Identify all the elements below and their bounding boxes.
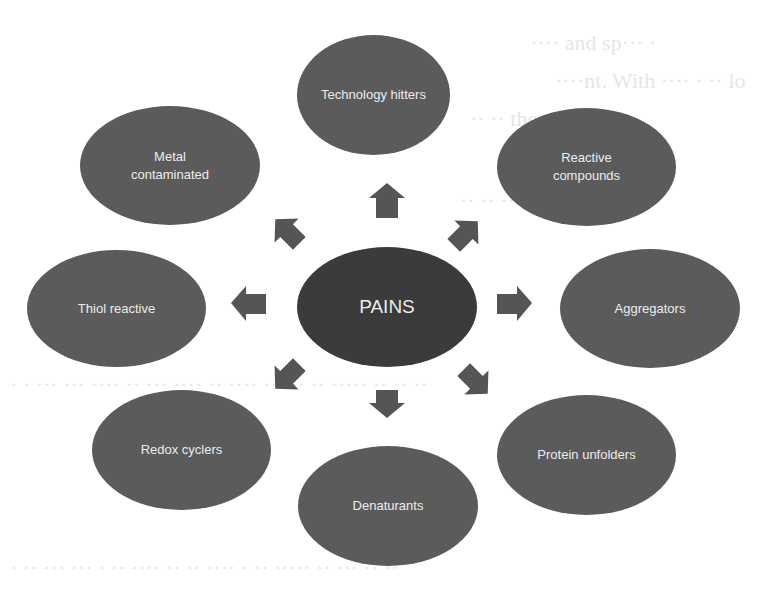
node-label: Redox cyclers <box>141 441 223 459</box>
node-label: Technology hitters <box>321 86 426 104</box>
node-protein-unfolders: Protein unfolders <box>497 395 676 515</box>
node-label-line2: contaminated <box>131 166 209 184</box>
node-redox-cyclers: Redox cyclers <box>92 390 271 510</box>
node-pains-center: PAINS <box>297 247 477 367</box>
node-label-line2: compounds <box>553 167 620 185</box>
arrow-up-left-icon <box>263 207 311 255</box>
node-label-line1: Metal <box>131 148 209 166</box>
node-label-line1: Reactive <box>553 149 620 167</box>
arrow-left-icon <box>231 286 266 321</box>
node-technology-hitters: Technology hitters <box>297 35 450 155</box>
arrow-down-left-icon <box>263 353 311 401</box>
node-denaturants: Denaturants <box>298 446 478 566</box>
node-label: Thiol reactive <box>78 300 155 318</box>
arrow-up-icon <box>369 183 405 218</box>
node-reactive-compounds: Reactive compounds <box>497 108 676 226</box>
center-label: PAINS <box>359 298 415 316</box>
arrow-up-right-icon <box>442 209 490 257</box>
node-label: Protein unfolders <box>537 446 635 464</box>
node-aggregators: Aggregators <box>560 249 740 368</box>
arrow-right-icon <box>497 286 532 321</box>
arrow-down-right-icon <box>452 358 500 406</box>
arrow-down-icon <box>369 390 405 418</box>
node-label: Aggregators <box>615 300 686 318</box>
node-metal-contaminated: Metal contaminated <box>80 106 260 225</box>
node-thiol-reactive: Thiol reactive <box>27 250 206 367</box>
node-label: Denaturants <box>353 497 424 515</box>
